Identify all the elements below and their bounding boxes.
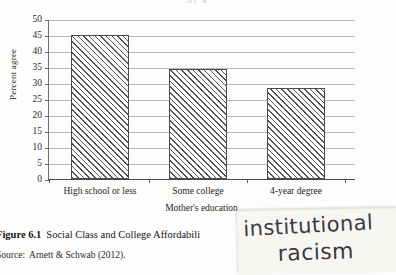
x-tick-end (345, 179, 346, 183)
figure-title: Social Class and College Affordabili (46, 229, 200, 240)
y-tick-50 (45, 20, 49, 21)
bar-chart-figure: Percent agree 50 45 40 35 30 25 20 (0, 0, 396, 212)
figure-page: of a Percent agree 50 45 40 35 30 25 (0, 0, 396, 275)
bar-4-year-degree (267, 88, 325, 179)
sticky-note: institutional racism (237, 207, 396, 275)
y-tick-label-25: 25 (33, 95, 43, 105)
y-tick-5 (45, 164, 49, 165)
x-tick-1 (149, 179, 150, 183)
y-tick-label-45: 45 (33, 31, 43, 41)
y-tick-label-5: 5 (37, 159, 42, 169)
handwritten-annotation-line-1: institutional (243, 210, 374, 241)
y-tick-label-35: 35 (33, 63, 43, 73)
bar-some-college (169, 69, 227, 179)
y-axis-title: Percent agree (8, 49, 18, 100)
y-tick-15 (45, 132, 49, 133)
y-tick-40 (45, 52, 49, 53)
y-tick-label-15: 15 (33, 127, 43, 137)
handwritten-annotation-line-2: racism (277, 238, 354, 266)
y-tick-label-10: 10 (33, 143, 43, 153)
figure-number: Figure 6.1 (0, 229, 41, 240)
x-tick-start (49, 179, 50, 183)
y-tick-35 (45, 68, 49, 69)
x-tick-2 (247, 179, 248, 183)
y-tick-20 (45, 116, 49, 117)
plot-area: 50 45 40 35 30 25 20 15 10 (48, 20, 355, 180)
y-tick-10 (45, 148, 49, 149)
y-tick-label-40: 40 (33, 47, 43, 57)
y-tick-label-30: 30 (33, 79, 43, 89)
y-tick-30 (45, 84, 49, 85)
gridline-50 (49, 20, 355, 21)
source-label: Source: (0, 250, 25, 260)
source-text: Arnett & Schwab (2012). (29, 250, 126, 260)
y-tick-label-0: 0 (37, 175, 42, 185)
figure-source: Source:Arnett & Schwab (2012). (0, 250, 246, 260)
y-tick-label-20: 20 (33, 111, 43, 121)
y-tick-label-50: 50 (33, 15, 43, 25)
x-tick-label-high-school-or-less: High school or less (63, 187, 136, 197)
x-tick-label-some-college: Some college (172, 187, 223, 197)
y-tick-45 (45, 36, 49, 37)
x-tick-label-4-year-degree: 4-year degree (270, 187, 322, 197)
bar-high-school-or-less (71, 35, 129, 179)
y-tick-25 (45, 100, 49, 101)
